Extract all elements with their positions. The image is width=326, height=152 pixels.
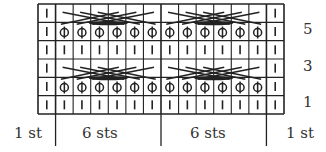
label-repeat-2: 6 sts: [190, 124, 226, 142]
row-number-1: 1: [303, 93, 313, 111]
label-repeat-1: 6 sts: [82, 124, 118, 142]
label-left-edge-stitch: 1 st: [14, 124, 42, 142]
label-right-edge-stitch: 1 st: [286, 124, 314, 142]
row-number-3: 3: [303, 57, 313, 75]
row-number-5: 5: [303, 20, 313, 38]
chart-grid: [38, 4, 284, 114]
knitting-chart: [0, 0, 326, 152]
